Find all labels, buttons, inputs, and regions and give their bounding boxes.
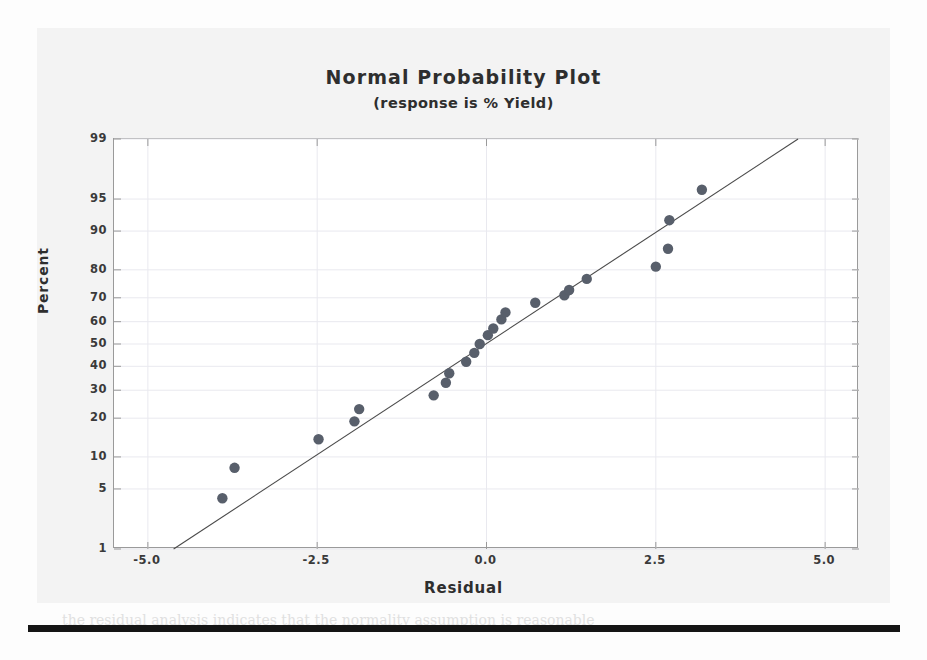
data-point <box>475 339 485 349</box>
data-point <box>488 323 498 333</box>
y-axis-tick-labels: 999590807060504030201051 <box>67 138 107 548</box>
y-axis-tick-label: 60 <box>90 314 107 328</box>
data-point <box>663 244 673 254</box>
data-point <box>217 493 227 503</box>
y-axis-tick-label: 99 <box>90 131 107 145</box>
data-point <box>697 185 707 195</box>
data-point <box>461 357 471 367</box>
data-point <box>441 378 451 388</box>
data-point <box>469 348 479 358</box>
data-point <box>444 368 454 378</box>
data-point <box>349 416 359 426</box>
data-point <box>229 463 239 473</box>
x-axis-tick-labels: -5.0-2.50.02.55.0 <box>113 553 858 573</box>
x-axis-tick-label: 2.5 <box>644 553 666 567</box>
y-axis-tick-label: 90 <box>90 223 107 237</box>
chart-subtitle: (response is % Yield) <box>37 95 890 111</box>
x-axis-tick-label: 0.0 <box>475 553 497 567</box>
y-axis-tick-label: 95 <box>90 191 107 205</box>
data-point <box>582 274 592 284</box>
data-point <box>500 307 510 317</box>
chart-title: Normal Probability Plot <box>37 66 890 88</box>
y-axis-tick-label: 5 <box>98 481 107 495</box>
scanned-page: 12.12 Conclusions and Future Means make … <box>0 0 927 660</box>
page-horizontal-rule <box>28 625 900 632</box>
x-axis-tick-label: -5.0 <box>133 553 160 567</box>
data-point <box>564 285 574 295</box>
y-axis-label: Percent <box>35 247 51 314</box>
plot-frame <box>113 138 858 548</box>
data-point <box>664 215 674 225</box>
normal-probability-plot-panel: Normal Probability Plot (response is % Y… <box>37 28 890 603</box>
plot-area <box>114 139 857 547</box>
y-axis-tick-label: 50 <box>90 336 107 350</box>
data-points-layer <box>114 139 859 549</box>
y-axis-tick-label: 80 <box>90 262 107 276</box>
x-axis-tick-label: -2.5 <box>303 553 330 567</box>
data-point <box>313 434 323 444</box>
data-point <box>354 404 364 414</box>
x-axis-tick-label: 5.0 <box>813 553 835 567</box>
data-point <box>651 261 661 271</box>
data-point <box>530 298 540 308</box>
y-axis-tick-label: 30 <box>90 382 107 396</box>
y-axis-tick-label: 10 <box>90 449 107 463</box>
y-axis-tick-label: 20 <box>90 410 107 424</box>
y-axis-tick-label: 1 <box>98 541 107 555</box>
y-axis-tick-label: 70 <box>90 290 107 304</box>
y-axis-tick-label: 40 <box>90 358 107 372</box>
x-axis-label: Residual <box>37 579 890 597</box>
data-point <box>428 390 438 400</box>
